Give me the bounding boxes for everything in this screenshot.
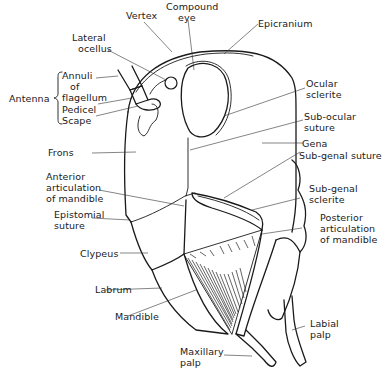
antenna-pedicel <box>130 86 148 104</box>
insect-head-diagram: Vertex Compound eye Epicranium Lateral o… <box>0 0 390 380</box>
lateral-ocellus <box>165 77 177 89</box>
label-labial-palp-line1: Labial <box>310 318 339 329</box>
leader-lines <box>92 20 305 356</box>
label-maxillary-palp-line1: Maxillary <box>180 346 224 357</box>
label-mandible: Mandible <box>115 311 159 322</box>
label-posterior-articulation-line2: articulation <box>320 223 375 234</box>
antenna-flagellum <box>118 66 142 90</box>
vertex-ridge <box>136 53 253 92</box>
label-anterior-articulation-line3: of mandible <box>46 193 104 204</box>
label-sub-genal-sclerite-line2: sclerite <box>309 194 345 205</box>
label-compound-eye-line2: eye <box>178 12 196 23</box>
label-frons: Frons <box>48 147 74 158</box>
sub-genal-suture-inner <box>198 196 259 220</box>
label-sub-ocular-suture-line1: Sub-ocular <box>304 111 356 122</box>
label-annuli-line1: Annuli <box>62 70 92 81</box>
label-epicranium: Epicranium <box>258 18 313 29</box>
label-anterior-articulation-line1: Anterior <box>46 171 85 182</box>
label-vertex: Vertex <box>126 10 157 21</box>
antenna-scape <box>136 99 160 110</box>
label-sub-ocular-suture-line2: suture <box>304 122 335 133</box>
antenna-brace <box>54 72 62 124</box>
label-sub-genal-suture: Sub-genal suture <box>299 150 382 161</box>
label-compound-eye-line1: Compound <box>166 1 218 12</box>
ocular-sclerite-rim <box>186 61 231 135</box>
labrum <box>152 254 228 334</box>
label-posterior-articulation-line3: of mandible <box>320 234 378 245</box>
sub-genal-sclerite <box>192 193 263 230</box>
maxilla <box>236 230 276 336</box>
label-lateral-ocellus-line2: ocellus <box>78 43 112 54</box>
label-labial-palp-line2: palp <box>310 329 331 340</box>
label-clypeus: Clypeus <box>80 248 118 259</box>
label-maxillary-palp-line2: palp <box>180 357 201 368</box>
label-gena: Gena <box>302 138 327 149</box>
antennal-ridge <box>150 80 166 94</box>
label-annuli-line2: of <box>70 81 79 92</box>
label-ocular-sclerite-line2: sclerite <box>306 89 342 100</box>
label-antenna: Antenna <box>9 93 50 104</box>
label-ocular-sclerite-line1: Ocular <box>306 78 338 89</box>
label-posterior-articulation-line1: Posterior <box>320 212 363 223</box>
label-labrum: Labrum <box>95 284 132 295</box>
label-lateral-ocellus-line1: Lateral <box>72 32 106 43</box>
gena-lower-margin <box>292 160 306 252</box>
label-anterior-articulation-line2: articulation <box>46 182 101 193</box>
compound-eye <box>181 64 228 137</box>
label-epistomial-suture-line1: Epistomial <box>54 209 105 220</box>
sub-ocular-suture-line <box>186 138 188 196</box>
head-capsule-outline <box>128 51 296 232</box>
label-pedicel: Pedicel <box>62 104 96 115</box>
label-sub-genal-sclerite-line1: Sub-genal <box>309 183 358 194</box>
label-epistomial-suture-line2: suture <box>54 220 85 231</box>
label-annuli-line3: flagellum <box>62 92 107 103</box>
frons-left-margin <box>125 112 131 222</box>
label-scape: Scape <box>62 115 91 126</box>
